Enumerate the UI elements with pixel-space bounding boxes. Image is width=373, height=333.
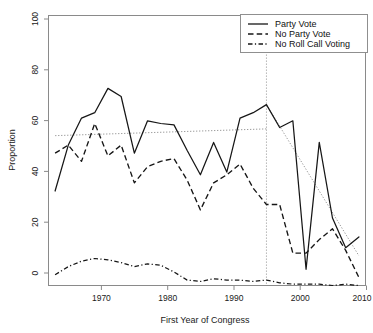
y-axis-title: Proportion (7, 129, 17, 171)
x-tick-label: 2000 (291, 293, 310, 303)
legend-label-no-roll-call-voting: No Roll Call Voting (275, 39, 350, 49)
y-tick-label: 0 (30, 270, 40, 275)
legend-label-party-vote: Party Vote (275, 19, 317, 29)
x-axis-title: First Year of Congress (160, 315, 250, 325)
line-chart: 0 20 40 60 80 100 Proportion 1970 1980 1… (0, 0, 373, 333)
legend: Party Vote No Party Vote No Roll Call Vo… (241, 15, 368, 53)
y-tick-label: 80 (30, 65, 40, 75)
y-tick-label: 20 (30, 217, 40, 227)
x-tick-label: 2010 (353, 293, 372, 303)
chart-container: 0 20 40 60 80 100 Proportion 1970 1980 1… (0, 0, 373, 333)
x-tick-label: 1980 (158, 293, 177, 303)
x-tick-label: 1990 (225, 293, 244, 303)
y-tick-label: 40 (30, 166, 40, 176)
legend-label-no-party-vote: No Party Vote (275, 29, 331, 39)
x-tick-label: 1970 (92, 293, 111, 303)
y-tick-label: 60 (30, 116, 40, 126)
y-tick-label: 100 (30, 12, 40, 26)
